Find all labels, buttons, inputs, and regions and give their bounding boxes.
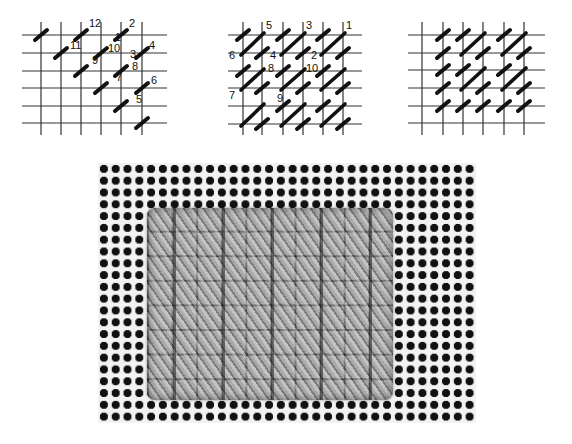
stitch-number-label: 8	[268, 62, 274, 74]
stitch-number-label: 9	[277, 92, 283, 104]
long-stitch	[321, 104, 345, 126]
stitch-diagrams: 12211110439876553164281079	[0, 0, 572, 160]
long-stitch	[321, 33, 345, 55]
stitch-number-label: 5	[136, 93, 142, 105]
stitched-yarn-sample	[147, 208, 393, 400]
long-stitch	[281, 104, 305, 126]
stitch-number-label: 9	[92, 54, 98, 66]
stitch-number-label: 3	[130, 48, 136, 60]
long-stitch	[461, 68, 485, 90]
long-stitch	[461, 33, 485, 55]
stitch-number-label: 12	[89, 17, 101, 29]
stitch-number-label: 1	[346, 19, 352, 31]
stitch-number-label: 10	[306, 62, 318, 74]
stitch-number-label: 8	[132, 60, 138, 72]
stitch-number-label: 6	[151, 74, 157, 86]
stitch-number-label: 7	[229, 89, 235, 101]
stitch-number-label: 5	[266, 19, 272, 31]
stitch-number-label: 3	[306, 19, 312, 31]
stitch-number-label: 2	[129, 17, 135, 29]
stitch-number-label: 7	[116, 71, 122, 83]
stitch-number-label: 10	[108, 42, 120, 54]
long-stitch	[502, 33, 526, 55]
long-stitch	[281, 33, 305, 55]
stitch-number-label: 2	[311, 49, 317, 61]
stitch-number-label: 4	[270, 49, 276, 61]
stitch-number-label: 11	[70, 39, 81, 51]
stitch-number-label: 4	[149, 39, 155, 51]
stitch-number-label: 6	[229, 49, 235, 61]
long-stitch	[502, 68, 526, 90]
